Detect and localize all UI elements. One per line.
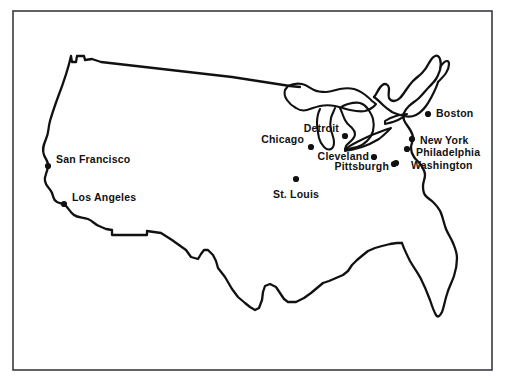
city-label-new-york: New York [420,135,468,146]
city-label-san-francisco: San Francisco [56,154,130,165]
city-marker-dot [308,144,314,150]
us-cities-map-figure: San FranciscoLos AngelesSt. LouisChicago… [0,0,506,387]
city-marker-dot [425,111,431,117]
city-marker-dot [404,146,410,152]
city-label-los-angeles: Los Angeles [72,192,136,203]
city-marker-dot [342,133,348,139]
city-label-pittsburgh: Pittsburgh [335,161,390,172]
city-label-washington: Washington [411,160,473,171]
city-marker-dot [61,201,67,207]
city-marker-dot [393,160,399,166]
city-label-detroit: Detroit [304,123,339,134]
city-marker-dot [293,176,299,182]
city-label-philadelphia: Philadelphia [416,147,480,158]
city-marker-dot [45,163,51,169]
city-label-st-louis: St. Louis [273,189,319,200]
city-label-chicago: Chicago [261,134,304,145]
city-label-boston: Boston [436,108,473,119]
city-marker-dot [409,136,415,142]
